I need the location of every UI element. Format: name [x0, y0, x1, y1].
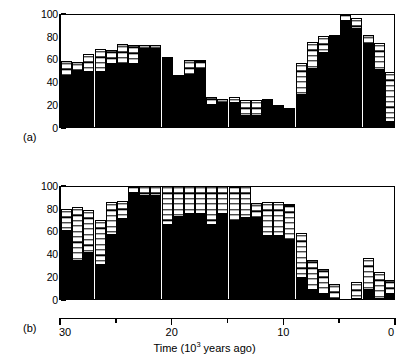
bar	[251, 186, 262, 299]
y-axis-tick-label: 100	[41, 180, 58, 191]
bar-series-panel-b	[61, 187, 394, 299]
bar-segment-solid	[296, 278, 307, 299]
bar-segment-open	[139, 186, 150, 196]
bar-segment-open	[351, 282, 362, 299]
bar	[61, 14, 72, 127]
y-axis-tick-label: 40	[47, 249, 58, 260]
bar	[363, 14, 374, 127]
bar-segment-open	[229, 186, 240, 221]
bar-segment-solid	[162, 225, 173, 299]
bar-segment-solid	[262, 102, 273, 127]
x-axis-title-prefix: Time (10	[153, 342, 196, 354]
bar-segment-open	[374, 43, 385, 70]
bar-segment-solid	[83, 72, 94, 127]
bar-segment-solid	[284, 108, 295, 127]
bar	[340, 14, 351, 127]
bar-segment-solid	[363, 45, 374, 127]
bar	[117, 186, 128, 299]
bar-segment-solid	[195, 69, 206, 127]
bar-segment-solid	[251, 116, 262, 127]
bar-segment-solid	[229, 221, 240, 299]
bar	[195, 14, 206, 127]
bar-segment-solid	[385, 122, 395, 127]
x-axis-tick-major	[283, 318, 284, 325]
bar-segment-open	[117, 201, 128, 219]
bar-segment-solid	[296, 95, 307, 127]
bar-segment-open	[363, 258, 374, 290]
bar-segment-solid	[363, 290, 374, 299]
bar	[83, 186, 94, 299]
bar-segment-solid	[229, 103, 240, 127]
bar-segment-solid	[184, 75, 195, 127]
bar-segment-solid	[61, 76, 72, 127]
bar-segment-open	[217, 99, 228, 104]
bar	[106, 14, 117, 127]
bar	[251, 14, 262, 127]
bar-segment-solid	[139, 49, 150, 127]
panel-label-a: (a)	[23, 131, 36, 143]
bar-segment-open	[229, 97, 240, 103]
bar-segment-open	[262, 202, 273, 236]
bar	[162, 186, 173, 299]
panel-b: 020406080100	[0, 160, 409, 320]
bar-segment-open	[95, 220, 106, 264]
bar	[329, 186, 340, 299]
bar-segment-solid	[206, 225, 217, 299]
bar	[195, 186, 206, 299]
bar-segment-solid	[351, 29, 362, 127]
panel-a: 020406080100 (a)	[0, 0, 409, 150]
bar-segment-open	[240, 100, 251, 116]
y-axis-tick-label: 100	[41, 8, 58, 19]
bar	[273, 186, 284, 299]
y-axis-tick-label: 80	[47, 31, 58, 42]
bar-segment-solid	[139, 196, 150, 299]
bar-segment-solid	[162, 57, 173, 127]
x-axis-tick-major	[171, 318, 172, 325]
bar	[363, 186, 374, 299]
bar-segment-open	[307, 260, 318, 290]
bar	[273, 14, 284, 127]
bar-segment-solid	[72, 72, 83, 127]
bar-segment-solid	[273, 108, 284, 127]
bar	[240, 186, 251, 299]
bar	[351, 14, 362, 127]
bar	[184, 186, 195, 299]
x-axis-title: Time (103 years ago)	[0, 338, 409, 355]
bar-segment-solid	[106, 64, 117, 127]
bar	[139, 14, 150, 127]
bar-segment-solid	[83, 253, 94, 299]
bar-segment-solid	[117, 64, 128, 127]
bar-segment-solid	[374, 70, 385, 127]
bar-segment-solid	[307, 290, 318, 299]
y-axis-tick-label: 20	[47, 99, 58, 110]
y-axis-tick-label: 0	[52, 122, 58, 133]
x-axis-tick-minor	[115, 318, 116, 323]
bar-segment-open	[251, 100, 262, 116]
bar	[329, 14, 340, 127]
x-axis-title-suffix: years ago)	[201, 342, 256, 354]
bar-segment-open	[128, 186, 139, 193]
bar	[184, 14, 195, 127]
bar-segment-solid	[262, 236, 273, 299]
y-axis-tick-label: 20	[47, 271, 58, 282]
bar-segment-open	[329, 284, 340, 299]
bar-segment-open	[106, 202, 117, 235]
bar-segment-solid	[195, 214, 206, 300]
bar	[262, 186, 273, 299]
x-axis-tick-label: 0	[388, 326, 394, 338]
bar-segment-solid	[318, 294, 329, 299]
bar-segment-solid	[284, 240, 295, 299]
bar	[128, 14, 139, 127]
bar-segment-open	[351, 18, 362, 29]
plot-area-panel-b	[60, 186, 395, 300]
bar-segment-open	[206, 186, 217, 225]
bar-segment-solid	[240, 116, 251, 127]
figure-stacked-bar-charts: 020406080100 (a) 020406080100 (b) 302010…	[0, 0, 409, 361]
bar-segment-open	[95, 49, 106, 72]
bar	[351, 186, 362, 299]
bar-segment-open	[117, 44, 128, 65]
bar	[229, 14, 240, 127]
x-axis-tick-label: 20	[166, 326, 178, 338]
bar-segment-solid	[95, 265, 106, 299]
bar	[262, 14, 273, 127]
